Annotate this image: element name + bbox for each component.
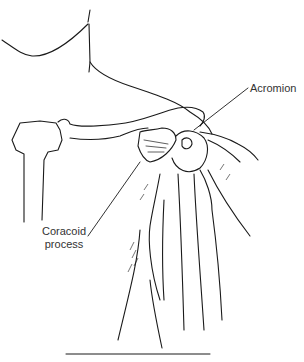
neck-outline [2, 24, 88, 56]
shoulder-illustration [0, 0, 304, 362]
neck-line [88, 10, 90, 72]
humerus [178, 170, 222, 330]
coracoid [138, 128, 176, 162]
coracoid-label-line2: process [39, 238, 89, 251]
humeral-head [172, 131, 207, 172]
coracoid-label-line1: Coracoid [39, 225, 89, 238]
shoulder-contour [90, 62, 212, 134]
coracoid-process-label: Coracoid process [39, 225, 89, 251]
sternum [12, 121, 62, 222]
clavicle [58, 107, 204, 126]
acromion-label: Acromion [250, 82, 296, 95]
coracoid-leader [88, 162, 140, 236]
acromion-leader [194, 88, 248, 130]
